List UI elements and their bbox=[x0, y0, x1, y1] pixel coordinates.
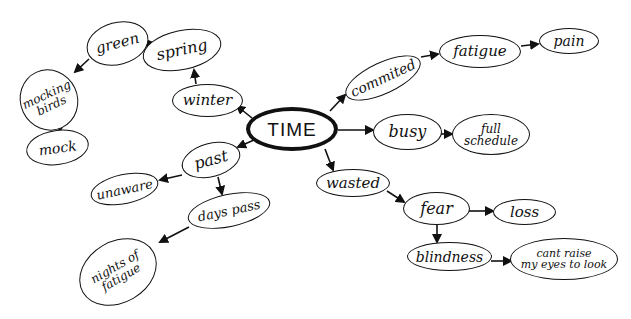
node-winter: winter bbox=[172, 84, 243, 117]
edge-green-mockingbirds bbox=[75, 59, 89, 72]
mind-map-canvas: TIME commited fatigue pain busy full sch… bbox=[0, 0, 631, 319]
edge-past-unaware bbox=[160, 175, 182, 180]
node-loss: loss bbox=[493, 199, 556, 225]
node-blindness: blindness bbox=[407, 242, 492, 271]
node-cant-raise: cant raise my eyes to look bbox=[510, 238, 618, 280]
edge-fatigue-pain bbox=[521, 44, 538, 46]
edge-wasted-fear bbox=[387, 191, 404, 202]
edge-time-wasted bbox=[325, 149, 333, 170]
node-fatigue: fatigue bbox=[439, 35, 521, 68]
node-wasted: wasted bbox=[316, 169, 390, 197]
edge-time-committed bbox=[330, 95, 345, 111]
edge-time-past bbox=[238, 140, 254, 147]
node-busy: busy bbox=[373, 114, 442, 150]
node-pain: pain bbox=[539, 28, 599, 54]
edge-winter-spring bbox=[194, 70, 196, 84]
node-full-schedule: full schedule bbox=[452, 114, 530, 155]
edge-committed-fatigue bbox=[421, 54, 438, 57]
edge-dayspass-nightsoffatigue bbox=[160, 227, 189, 242]
edge-past-dayspass bbox=[218, 177, 222, 194]
node-time: TIME bbox=[246, 107, 338, 151]
node-fear: fear bbox=[403, 192, 470, 225]
